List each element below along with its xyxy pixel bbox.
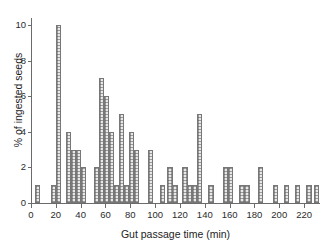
histogram-bar — [148, 150, 153, 203]
x-axis-tick — [130, 204, 131, 208]
x-axis-tick — [180, 204, 181, 208]
histogram-bar — [314, 185, 319, 203]
histogram-bar — [295, 185, 300, 203]
x-axis-tick — [230, 204, 231, 208]
x-axis-tick-label: 220 — [289, 210, 319, 220]
histogram-bar — [208, 185, 213, 203]
histogram-bar — [244, 185, 249, 203]
y-axis-tick — [28, 96, 32, 97]
histogram-bar — [228, 167, 233, 203]
histogram-bar — [197, 114, 202, 203]
histogram-bar — [160, 185, 165, 203]
x-axis-tick — [31, 204, 32, 208]
histogram-bar — [172, 185, 177, 203]
x-axis-tick — [304, 204, 305, 208]
x-axis-tick — [279, 204, 280, 208]
histogram-bar — [273, 185, 278, 203]
histogram-bar — [56, 25, 61, 203]
x-axis-tick — [254, 204, 255, 208]
x-axis-line — [31, 203, 320, 204]
histogram-chart: 0246810 020406080100120140160180200220 G… — [0, 0, 332, 250]
y-axis-tick — [28, 61, 32, 62]
bars-layer — [31, 18, 319, 203]
x-axis-tick — [56, 204, 57, 208]
x-axis-tick — [105, 204, 106, 208]
x-axis-tick — [155, 204, 156, 208]
histogram-bar — [81, 167, 86, 203]
histogram-bar — [258, 167, 263, 203]
x-axis-title: Gut passage time (min) — [31, 228, 320, 240]
y-axis-tick-label: 0 — [21, 198, 26, 208]
x-axis-tick — [81, 204, 82, 208]
histogram-bar — [284, 185, 289, 203]
y-axis-tick — [28, 25, 32, 26]
y-axis-title: % of ingested seeds — [12, 20, 24, 180]
histogram-bar — [35, 185, 40, 203]
x-axis-tick — [205, 204, 206, 208]
y-axis-tick — [28, 132, 32, 133]
histogram-bar — [306, 185, 311, 203]
y-axis-tick — [28, 167, 32, 168]
histogram-bar — [134, 150, 139, 203]
plot-area — [31, 18, 319, 203]
